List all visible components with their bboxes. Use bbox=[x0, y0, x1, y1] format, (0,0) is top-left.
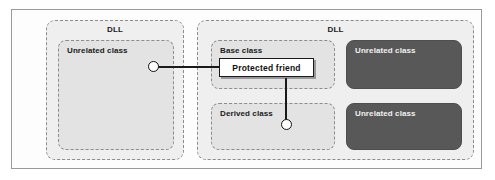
class-label-base: Base class bbox=[220, 46, 262, 55]
connector-line-horizontal bbox=[158, 66, 222, 68]
class-box-unrelated-left: Unrelated class bbox=[58, 40, 174, 150]
dll-label-right: DLL bbox=[198, 25, 473, 34]
class-label-unrelated-left: Unrelated class bbox=[67, 46, 128, 55]
class-label-unrelated-right-bottom: Unrelated class bbox=[355, 109, 416, 118]
class-label-unrelated-right-top: Unrelated class bbox=[355, 46, 416, 55]
class-box-unrelated-right-bottom: Unrelated class bbox=[346, 103, 462, 150]
diagram-canvas: DLL Unrelated class DLL Base class Unrel… bbox=[0, 0, 495, 180]
access-point-unrelated-class bbox=[148, 61, 159, 72]
dll-label-left: DLL bbox=[47, 25, 183, 34]
protected-friend-label: Protected friend bbox=[232, 63, 300, 73]
dll-container-right: DLL Base class Unrelated class Derived c… bbox=[197, 20, 474, 160]
class-box-derived: Derived class bbox=[211, 103, 335, 150]
protected-friend-callout[interactable]: Protected friend bbox=[219, 58, 314, 77]
dll-container-left: DLL Unrelated class bbox=[46, 20, 184, 160]
figure-frame: DLL Unrelated class DLL Base class Unrel… bbox=[11, 9, 482, 169]
access-point-derived-class bbox=[281, 119, 292, 130]
class-box-unrelated-right-top: Unrelated class bbox=[346, 40, 462, 89]
class-label-derived: Derived class bbox=[220, 109, 273, 118]
